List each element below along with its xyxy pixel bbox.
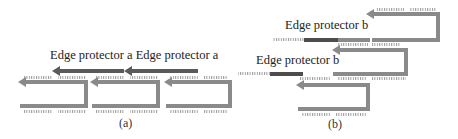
hairpin-a-2 [90, 76, 160, 113]
edge-protector-b-label-2: Edge protector b [256, 54, 339, 67]
edge-protector-b-strand-1 [304, 38, 338, 42]
edge-protector-a-strand-1 [52, 66, 124, 76]
hairpin-a-3 [164, 76, 232, 113]
edge-protector-a-strand-2 [124, 66, 198, 76]
panel-b-caption: (b) [328, 118, 342, 130]
hairpin-b-3 [296, 80, 370, 116]
panel-a-caption: (a) [119, 117, 132, 129]
edge-protector-b-strand-2 [270, 72, 303, 76]
hairpin-a-1 [18, 76, 88, 113]
panel-a [18, 66, 232, 113]
edge-protector-a-labels: Edge protector a Edge protector a [50, 49, 218, 62]
diagram-canvas [0, 0, 458, 139]
edge-protector-b-label-1: Edge protector b [285, 19, 368, 32]
